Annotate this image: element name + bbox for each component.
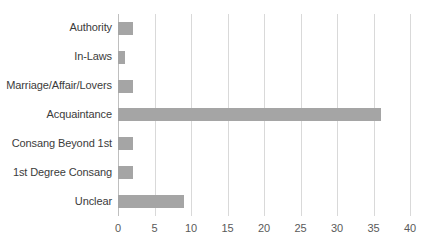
x-tick-label-35: 35 bbox=[367, 222, 379, 235]
bar-row bbox=[118, 43, 410, 72]
category-label: Consang Beyond 1st bbox=[12, 137, 112, 150]
bars-layer bbox=[118, 14, 410, 216]
bar-row bbox=[118, 187, 410, 216]
bar bbox=[118, 22, 133, 35]
bar bbox=[118, 137, 133, 150]
x-tick-label-0: 0 bbox=[115, 222, 121, 235]
bar bbox=[118, 51, 125, 64]
category-label: Unclear bbox=[75, 195, 112, 208]
x-tick-label-10: 10 bbox=[185, 222, 197, 235]
bar-row bbox=[118, 101, 410, 130]
bar-row bbox=[118, 129, 410, 158]
bar-row bbox=[118, 158, 410, 187]
bar bbox=[118, 108, 381, 121]
x-tick-label-20: 20 bbox=[258, 222, 270, 235]
x-tick-label-40: 40 bbox=[404, 222, 416, 235]
category-label: Marriage/Affair/Lovers bbox=[6, 79, 112, 92]
x-tick-label-15: 15 bbox=[221, 222, 233, 235]
gridline-40 bbox=[410, 14, 411, 216]
bar-chart: AuthorityIn-LawsMarriage/Affair/LoversAc… bbox=[0, 0, 426, 248]
plot-area bbox=[118, 14, 410, 216]
bar bbox=[118, 195, 184, 208]
category-label: In-Laws bbox=[74, 50, 112, 63]
x-tick-label-25: 25 bbox=[294, 222, 306, 235]
bar-row bbox=[118, 14, 410, 43]
bar bbox=[118, 166, 133, 179]
x-tick-label-30: 30 bbox=[331, 222, 343, 235]
x-tick-label-5: 5 bbox=[151, 222, 157, 235]
bar-row bbox=[118, 72, 410, 101]
category-label: Authority bbox=[69, 21, 112, 34]
category-label: Acquaintance bbox=[47, 108, 112, 121]
bar bbox=[118, 80, 133, 93]
category-label: 1st Degree Consang bbox=[13, 166, 112, 179]
